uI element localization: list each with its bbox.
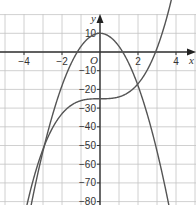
y-axis-arrow-icon — [97, 14, 104, 23]
y-tick-label: −20 — [79, 84, 96, 95]
x-tick-label: −2 — [56, 56, 68, 67]
y-tick-label: −10 — [79, 65, 96, 76]
y-tick-label: −80 — [79, 196, 96, 205]
x-axis-label: x — [188, 54, 194, 66]
x-tick-label: 2 — [135, 56, 141, 67]
y-tick-label: −30 — [79, 103, 96, 114]
y-tick-label: −60 — [79, 159, 96, 170]
grid — [0, 14, 196, 205]
y-tick-label: −40 — [79, 121, 96, 132]
y-tick-label: −70 — [79, 177, 96, 188]
chart-svg: −4−22410−10−20−30−40−50−60−70−80xyO — [0, 0, 196, 205]
x-tick-label: −4 — [18, 56, 30, 67]
y-axis-label: y — [90, 12, 96, 24]
axes — [0, 14, 196, 205]
origin-label: O — [90, 54, 98, 66]
x-tick-label: 4 — [173, 56, 179, 67]
y-tick-label: −50 — [79, 140, 96, 151]
